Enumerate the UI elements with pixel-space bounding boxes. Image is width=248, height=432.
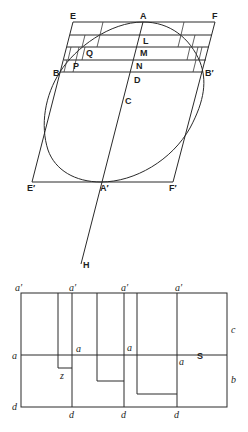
label-N: N [136, 61, 143, 71]
label-d-2: d [69, 409, 75, 420]
label-S: S [197, 351, 203, 361]
label-a-prime-4: a′ [175, 282, 183, 293]
diagram-canvas: E A F L Q M P N B D B′ C E′ A′ F′ H a′ a… [0, 0, 248, 432]
label-E-prime: E′ [27, 183, 35, 193]
label-M: M [140, 48, 148, 58]
label-B-prime: B′ [205, 68, 214, 78]
label-a-3: a [127, 342, 132, 353]
label-F: F [212, 11, 218, 21]
step-2 [97, 293, 124, 381]
bottom-figure: a′ a′ a′ a′ a a a a S c b z d d d d [12, 282, 236, 420]
label-L: L [143, 36, 149, 46]
label-F-prime: F′ [169, 183, 177, 193]
diameter-AH [81, 22, 143, 264]
label-A: A [140, 11, 147, 21]
label-C: C [125, 96, 132, 106]
label-d-3: d [121, 409, 127, 420]
top-figure: E A F L Q M P N B D B′ C E′ A′ F′ H [27, 11, 218, 270]
label-a-prime-1: a′ [15, 282, 23, 293]
label-H: H [83, 260, 90, 270]
label-a-prime-2: a′ [69, 282, 77, 293]
step-3 [137, 293, 177, 394]
label-b: b [231, 374, 236, 385]
label-a-prime-3: a′ [121, 282, 129, 293]
label-a-4: a [179, 356, 184, 367]
step-1 [58, 293, 72, 368]
label-D: D [134, 75, 141, 85]
label-z: z [59, 370, 64, 381]
parallelogram-EFF'E' [32, 22, 215, 182]
label-Q: Q [86, 48, 93, 58]
label-P: P [73, 61, 79, 71]
label-d-4: d [174, 409, 180, 420]
label-A-prime: A′ [100, 183, 109, 193]
label-B: B [53, 68, 60, 78]
label-c: c [231, 324, 236, 335]
label-d-1: d [12, 401, 18, 412]
label-a-1: a [12, 350, 17, 361]
label-a-2: a [76, 343, 81, 354]
label-E: E [70, 11, 76, 21]
